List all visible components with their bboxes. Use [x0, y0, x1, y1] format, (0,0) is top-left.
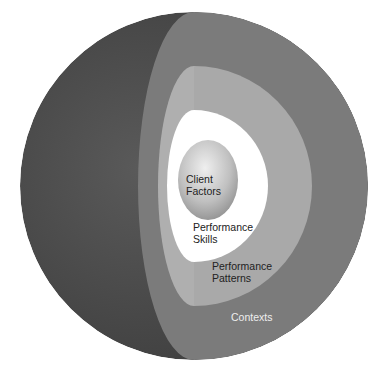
- label-contexts: Contexts: [231, 311, 272, 323]
- nested-layers-diagram: Client Factors Performance Skills Perfor…: [0, 0, 379, 369]
- label-client-factors: Client Factors: [186, 173, 221, 197]
